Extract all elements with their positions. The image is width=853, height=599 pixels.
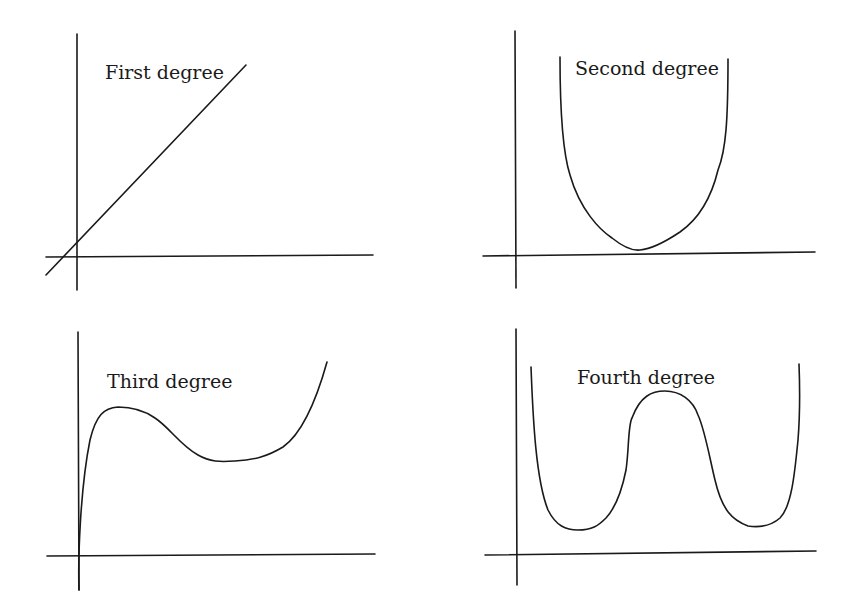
y-axis xyxy=(516,329,517,585)
panel-second-degree: Second degree xyxy=(483,31,815,288)
y-axis xyxy=(515,31,516,288)
panel-label: Second degree xyxy=(575,57,719,79)
polynomial-degree-figure: First degree Second degree Third degree … xyxy=(0,0,853,599)
panel-first-degree: First degree xyxy=(46,34,373,290)
quadratic-curve xyxy=(560,57,728,250)
panel-third-degree: Third degree xyxy=(47,332,375,590)
x-axis xyxy=(485,551,816,555)
panel-label: Third degree xyxy=(107,370,232,392)
linear-curve xyxy=(46,65,246,275)
x-axis xyxy=(483,252,815,256)
x-axis xyxy=(47,554,375,556)
quartic-curve xyxy=(531,364,800,530)
x-axis xyxy=(46,255,373,257)
panel-fourth-degree: Fourth degree xyxy=(485,329,816,585)
panel-label: First degree xyxy=(105,61,224,83)
panel-label: Fourth degree xyxy=(577,366,715,388)
